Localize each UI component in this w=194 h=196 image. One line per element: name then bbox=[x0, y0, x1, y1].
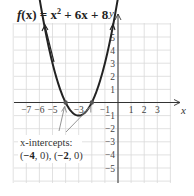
y-tick-label: −5 bbox=[105, 164, 115, 174]
y-tick-label: 4 bbox=[110, 46, 115, 56]
x-intercepts-callout: x-intercepts: (−4, 0), (−2, 0) bbox=[20, 136, 83, 162]
y-tick-label: −2 bbox=[105, 124, 115, 134]
y-tick-label: 1 bbox=[110, 85, 115, 95]
x-tick-label: −3 bbox=[74, 105, 84, 115]
title-eq: = x bbox=[37, 7, 57, 22]
x-axis-label: x bbox=[180, 104, 186, 116]
y-tick-label: −1 bbox=[105, 111, 115, 121]
title-rest: + 6x + 8 bbox=[61, 7, 108, 22]
callout-line-1 bbox=[59, 107, 65, 132]
x-tick-label: −6 bbox=[34, 105, 44, 115]
x-intercept-point bbox=[90, 100, 94, 104]
callout-sep: , 0), ( bbox=[35, 150, 58, 161]
function-title: f(x) = x2 + 6x + 8 bbox=[17, 7, 108, 23]
y-tick-label: 2 bbox=[110, 72, 115, 82]
x-tick-label: 1 bbox=[129, 105, 134, 115]
callout-label: x-intercepts: bbox=[20, 136, 83, 149]
callout-end: , 0) bbox=[69, 150, 83, 161]
title-arg: (x) bbox=[21, 7, 36, 22]
x-intercept-point bbox=[63, 100, 67, 104]
y-tick-label: 3 bbox=[110, 59, 115, 69]
x-tick-label: −7 bbox=[21, 105, 31, 115]
callout-points: (−4, 0), (−2, 0) bbox=[20, 149, 83, 162]
y-tick-label: −3 bbox=[105, 137, 115, 147]
x-tick-label: 3 bbox=[155, 105, 160, 115]
callout-point1-x: −4 bbox=[24, 150, 35, 161]
graph: xy−7−6−5−3−112354321−1−2−3−4−5 bbox=[0, 0, 194, 196]
callout-point2-x: −2 bbox=[57, 150, 68, 161]
y-tick-label: −4 bbox=[105, 150, 115, 160]
x-tick-label: −5 bbox=[47, 105, 57, 115]
x-tick-label: 2 bbox=[142, 105, 147, 115]
y-axis-label: y bbox=[108, 7, 114, 19]
